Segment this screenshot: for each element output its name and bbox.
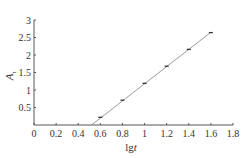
x-tick-label: 0.6 bbox=[94, 128, 107, 139]
y-tick-label: 1.5 bbox=[19, 67, 32, 78]
y-axis-title: At bbox=[3, 72, 18, 82]
x-axis-title: lgt bbox=[125, 141, 138, 153]
y-tick-label: 2.5 bbox=[19, 32, 32, 43]
x-tick-label: 1 bbox=[142, 128, 147, 139]
x-tick-label: 0.2 bbox=[50, 128, 63, 139]
y-tick-label: 2 bbox=[26, 50, 31, 61]
axes bbox=[34, 20, 233, 125]
svg-text:At: At bbox=[3, 72, 18, 82]
x-tick-label: 1.2 bbox=[160, 128, 173, 139]
y-axis-ticks: 0.511.522.53 bbox=[19, 15, 37, 114]
x-tick-label: 1.6 bbox=[205, 128, 218, 139]
fit-line bbox=[91, 32, 210, 125]
x-tick-label: 1.8 bbox=[227, 128, 240, 139]
x-tick-label: 0 bbox=[32, 128, 37, 139]
x-tick-label: 1.4 bbox=[183, 128, 196, 139]
y-tick-label: 0.5 bbox=[19, 102, 32, 113]
y-tick-label: 1 bbox=[26, 85, 31, 96]
x-tick-label: 0.8 bbox=[116, 128, 129, 139]
y-tick-label: 3 bbox=[26, 15, 31, 26]
x-tick-label: 0.4 bbox=[72, 128, 85, 139]
chart: 00.20.40.60.811.21.41.61.8 0.511.522.53 … bbox=[0, 0, 251, 158]
